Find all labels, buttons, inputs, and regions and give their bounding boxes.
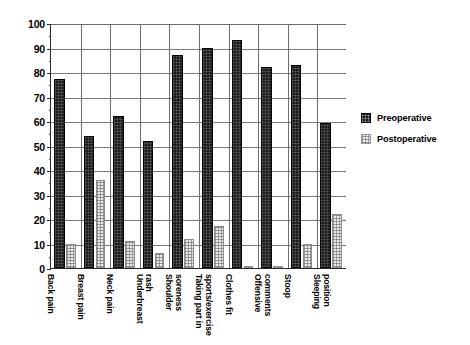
- gridline-x-1: [110, 24, 111, 268]
- x-axis-label: soreness: [174, 274, 183, 311]
- gridline-x-7: [288, 24, 289, 268]
- y-tick-minor-95: [49, 36, 52, 37]
- bar-postoperative: [125, 241, 135, 268]
- bar-group: [143, 24, 165, 268]
- y-tick-mark-10: [47, 245, 51, 246]
- gridline-x-4: [199, 24, 200, 268]
- y-tick-minor-85: [49, 61, 52, 62]
- bar-group: [261, 24, 283, 268]
- bar-group: [54, 24, 76, 268]
- x-axis-label: Neck pain: [105, 274, 114, 314]
- y-tick-mark-30: [47, 196, 51, 197]
- bar-preoperative: [84, 136, 95, 268]
- bar-preoperative: [261, 67, 272, 268]
- legend-label-preoperative: Preoperative: [377, 113, 431, 123]
- y-tick-mark-20: [47, 220, 51, 221]
- bar-postoperative: [332, 214, 342, 268]
- y-tick-mark-0: [47, 269, 51, 270]
- y-tick-mark-50: [47, 147, 51, 148]
- bar-preoperative: [320, 123, 331, 268]
- x-axis-label: Back pain: [46, 274, 55, 314]
- gridline-x-5: [229, 24, 230, 268]
- y-tick-minor-45: [49, 159, 52, 160]
- bar-postoperative: [303, 244, 313, 269]
- gridline-x-8: [317, 24, 318, 268]
- legend-item-postoperative: Postoperative: [361, 134, 466, 144]
- bar-preoperative: [202, 48, 213, 269]
- legend-swatch-preoperative-icon: [361, 113, 371, 123]
- y-tick-mark-40: [47, 171, 51, 172]
- y-tick-mark-100: [47, 24, 51, 25]
- bar-group: [232, 24, 254, 268]
- x-axis-label: Clothes fit: [223, 274, 232, 315]
- bar-group: [320, 24, 342, 268]
- bar-postoperative: [66, 244, 76, 269]
- x-axis-label: Sleeping: [312, 274, 321, 309]
- bar-preoperative: [172, 55, 183, 268]
- bar-postoperative: [214, 226, 224, 268]
- legend-swatch-postoperative-icon: [361, 134, 371, 144]
- bar-group: [172, 24, 194, 268]
- x-axis-label: Stoop: [282, 274, 291, 298]
- chart-legend: Preoperative Postoperative: [361, 113, 466, 155]
- bar-group: [84, 24, 106, 268]
- y-tick-mark-60: [47, 122, 51, 123]
- bar-group: [113, 24, 135, 268]
- bar-chart: 0102030405060708090100 Back painBreast p…: [0, 0, 470, 345]
- x-axis-labels: Back painBreast painNeck painUnderbreast…: [50, 272, 350, 345]
- y-tick-mark-80: [47, 73, 51, 74]
- y-tick-minor-75: [49, 85, 52, 86]
- x-axis-label: Shoulder: [164, 274, 173, 310]
- bar-postoperative: [244, 266, 254, 268]
- bar-preoperative: [143, 141, 154, 268]
- bar-postoperative: [96, 180, 106, 268]
- plot-area: 0102030405060708090100: [50, 24, 346, 269]
- y-tick-minor-65: [49, 110, 52, 111]
- legend-item-preoperative: Preoperative: [361, 113, 466, 123]
- x-axis-label: Breast pain: [75, 274, 84, 320]
- bar-preoperative: [54, 79, 65, 268]
- x-axis-label: Underbreast: [134, 274, 143, 324]
- x-axis-label: Taking part in: [194, 274, 203, 328]
- y-tick-minor-55: [49, 134, 52, 135]
- bar-preoperative: [113, 116, 124, 268]
- bar-postoperative: [184, 239, 194, 268]
- y-tick-mark-70: [47, 98, 51, 99]
- x-axis-label: rash: [144, 274, 153, 292]
- y-tick-mark-90: [47, 49, 51, 50]
- y-tick-minor-25: [49, 208, 52, 209]
- x-axis-label: sports/exercise: [203, 274, 212, 336]
- bar-preoperative: [232, 40, 243, 268]
- bar-postoperative: [155, 253, 165, 268]
- bar-group: [202, 24, 224, 268]
- gridline-x-6: [258, 24, 259, 268]
- x-axis-label: position: [322, 274, 331, 307]
- gridline-x-2: [140, 24, 141, 268]
- y-tick-minor-5: [49, 257, 52, 258]
- gridline-x-3: [169, 24, 170, 268]
- x-axis-label: comments: [262, 274, 271, 316]
- bar-preoperative: [291, 65, 302, 268]
- x-axis-label: Offensive: [253, 274, 262, 312]
- y-tick-minor-35: [49, 183, 52, 184]
- y-tick-minor-15: [49, 232, 52, 233]
- bar-postoperative: [273, 266, 283, 268]
- legend-label-postoperative: Postoperative: [377, 134, 436, 144]
- gridline-x-0: [81, 24, 82, 268]
- bar-group: [291, 24, 313, 268]
